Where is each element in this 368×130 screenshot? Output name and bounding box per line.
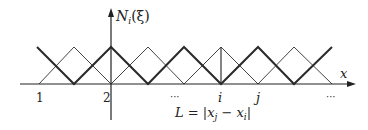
y-axis-label: Ni(ξ) [115,8,150,26]
x-axis-arrow-icon [347,81,356,87]
node-label-i: i [218,90,222,105]
y-axis-arrow-icon [108,8,114,17]
thick-hat-functions [37,47,332,84]
node-label-1: 1 [36,91,44,105]
x-axis-label: x [340,66,348,81]
node-label-ellipsis-2: ··· [326,91,336,102]
node-label-ellipsis-1: ··· [170,91,180,102]
element-length-label: L = |xj − xi| [174,105,251,122]
shape-function-diagram: Ni(ξ) x 1 2 ··· i j ··· L = |xj − xi| [0,0,368,130]
node-label-2: 2 [103,91,111,105]
node-label-j: j [253,90,260,105]
